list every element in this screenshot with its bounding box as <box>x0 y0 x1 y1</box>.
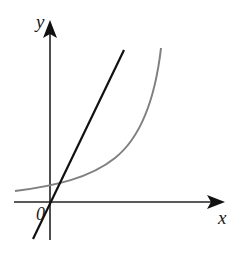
origin-label: 0 <box>36 205 45 223</box>
x-axis-label: x <box>218 208 226 227</box>
straight-line <box>33 50 124 239</box>
graph-canvas <box>0 0 240 274</box>
exponential-curve <box>15 48 161 191</box>
coordinate-diagram: y x 0 <box>0 0 240 274</box>
y-axis-label: y <box>36 12 44 31</box>
